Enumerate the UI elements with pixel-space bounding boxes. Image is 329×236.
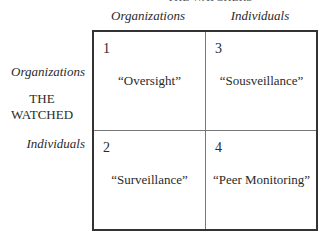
matrix-grid: 1 “Oversight” 3 “Sousveillance” 2 “Surve…: [92, 30, 318, 231]
cell-label: “Surveillance”: [94, 172, 205, 188]
cell-label: “Sousveillance”: [206, 73, 317, 89]
cell-number: 1: [103, 41, 110, 57]
cell-number: 4: [215, 140, 222, 156]
cell-surveillance: 2 “Surveillance”: [94, 131, 205, 229]
watched-title: THE WATCHED: [0, 91, 84, 123]
cell-oversight: 1 “Oversight”: [94, 32, 205, 130]
watched-title-line-2: WATCHED: [0, 107, 84, 123]
column-header-individuals: Individuals: [204, 8, 316, 24]
watchers-title: THE WATCHERS: [150, 0, 270, 3]
cell-number: 2: [103, 140, 110, 156]
cell-number: 3: [215, 41, 222, 57]
column-header-organizations: Organizations: [92, 8, 204, 24]
row-header-organizations: Organizations: [11, 64, 85, 80]
cell-sousveillance: 3 “Sousveillance”: [206, 32, 317, 130]
cell-label: “Oversight”: [94, 73, 205, 89]
watched-title-line-1: THE: [0, 91, 84, 107]
cell-peer-monitoring: 4 “Peer Monitoring”: [206, 131, 317, 229]
row-header-individuals: Individuals: [27, 136, 86, 152]
cell-label: “Peer Monitoring”: [206, 172, 317, 188]
